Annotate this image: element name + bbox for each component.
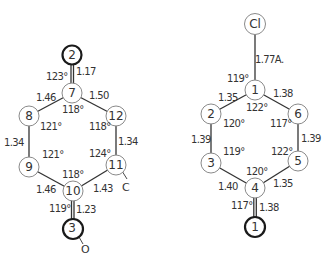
bond-length-7-12: 1.50: [89, 90, 109, 101]
bond-length-12-11: 1.34: [118, 136, 138, 147]
angle-4-inner: 120°: [246, 166, 268, 177]
bond-length-7-8: 1.46: [36, 92, 56, 103]
bond-length-1-2: 1.35: [218, 92, 238, 103]
angle-1-outer: 119°: [227, 73, 249, 84]
angle-12: 118°: [89, 121, 111, 132]
angle-9: 121°: [42, 149, 64, 160]
angle-10-inner: 118°: [62, 169, 84, 180]
atom-label: 8: [25, 109, 33, 123]
atom-label: 9: [25, 160, 33, 174]
angle-8: 121°: [40, 121, 62, 132]
angle-5: 122°: [271, 146, 293, 157]
diagram-svg: 2 7 8 12 9 11 10 3 Cl 1 2 6 3 5 4 1 1.17: [0, 0, 329, 262]
bond-length-11-10: 1.43: [93, 183, 113, 194]
bond-length-8-9: 1.34: [4, 137, 24, 148]
atom-label: 10: [65, 184, 80, 198]
bond-length-10-3: 1.23: [76, 204, 96, 215]
bond-length-4-1b: 1.38: [259, 202, 279, 213]
bond-length-5-4: 1.35: [273, 178, 293, 189]
angle-7-outer: 123°: [46, 71, 68, 82]
bond-length-2-7: 1.17: [76, 66, 96, 77]
bond-length-9-10: 1.46: [36, 184, 56, 195]
substituent-o: O: [81, 243, 90, 256]
atom-label: 2: [68, 48, 76, 62]
bond-length-2-3: 1.39: [191, 134, 211, 145]
atom-label: 4: [251, 181, 259, 195]
atom-label: 1: [251, 83, 259, 97]
bond-length-6-5: 1.39: [301, 133, 321, 144]
substituent-c: C: [122, 181, 130, 194]
molecular-structure-diagram: 2 7 8 12 9 11 10 3 Cl 1 2 6 3 5 4 1 1.17: [0, 0, 329, 262]
bond-length-1-6: 1.38: [273, 88, 293, 99]
atom-label: 2: [207, 107, 215, 121]
angle-6: 117°: [270, 118, 292, 129]
atom-label: 11: [108, 158, 123, 172]
bond-length-cl-1: 1.77A.: [255, 54, 284, 65]
left-molecule-atoms: 2 7 8 12 9 11 10 3: [19, 46, 126, 240]
atom-label: 5: [294, 154, 302, 168]
atom-label: 1: [251, 220, 259, 234]
atom-label: 3: [207, 156, 215, 170]
atom-label: 6: [294, 107, 302, 121]
angle-3: 119°: [223, 146, 245, 157]
angle-1-inner: 122°: [246, 102, 268, 113]
angle-7-inner: 118°: [62, 104, 84, 115]
bond-length-3-4: 1.40: [218, 181, 238, 192]
atom-label: 7: [68, 86, 76, 100]
angle-2: 120°: [223, 118, 245, 129]
atom-label: 3: [68, 221, 76, 235]
angle-4-outer: 117°: [231, 200, 253, 211]
angle-10-outer: 119°: [49, 203, 71, 214]
angle-11: 124°: [89, 148, 111, 159]
atom-label: Cl: [249, 17, 261, 31]
